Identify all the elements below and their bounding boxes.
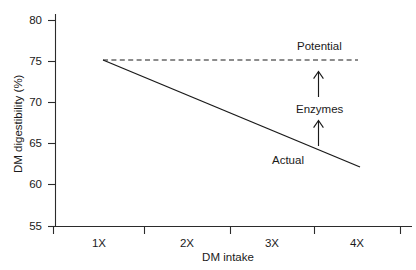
y-axis-ticks [48,21,56,227]
x-axis-title: DM intake [168,252,288,264]
y-tick-label-55: 55 [8,221,42,233]
annotation-enzymes: Enzymes [296,104,343,116]
annotation-potential: Potential [297,41,342,53]
upper-arrow-icon [314,72,324,98]
chart-figure: 80 75 70 65 60 55 1X 2X 3X 4X DM digesti… [0,0,416,270]
lower-arrow-icon [314,121,324,147]
annotation-actual: Actual [272,155,304,167]
x-tick-label-1x: 1X [79,238,119,250]
chart-plot-area [0,0,416,270]
x-tick-label-2x: 2X [167,238,207,250]
x-tick-label-4x: 4X [337,238,377,250]
y-tick-label-80: 80 [8,15,42,27]
x-axis-ticks [54,227,401,235]
x-tick-label-3x: 3X [252,238,292,250]
y-axis-title: DM digestibility (%) [13,54,25,194]
